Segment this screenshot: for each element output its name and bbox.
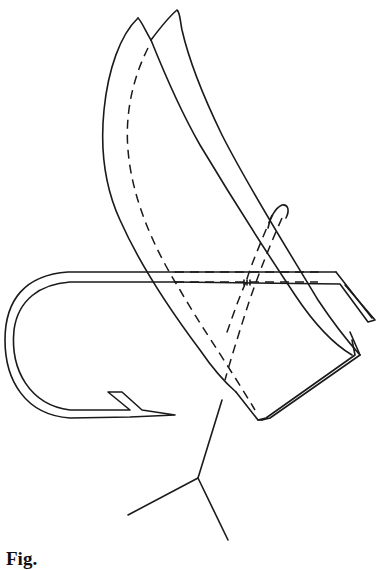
- hidden-lines: [127, 48, 318, 410]
- hook: [5, 272, 375, 418]
- wing-base: [236, 332, 360, 420]
- wing-right: [151, 10, 360, 355]
- leader-lines: [128, 400, 228, 540]
- figure-caption: Fig.: [6, 548, 376, 570]
- wing-left: [103, 18, 352, 392]
